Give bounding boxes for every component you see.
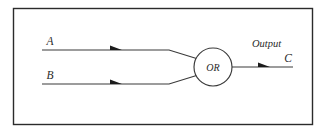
output-c-label: C xyxy=(284,52,292,64)
input-a-label: A xyxy=(45,35,54,47)
diagram-canvas: A B OR Output C xyxy=(0,0,328,131)
or-gate-label: OR xyxy=(206,62,219,73)
input-b-label: B xyxy=(46,69,53,81)
or-gate-diagram: A B OR Output C xyxy=(0,0,328,131)
output-caption: Output xyxy=(252,38,282,49)
